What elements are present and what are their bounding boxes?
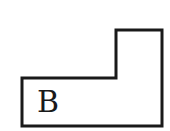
l-shape-diagram [0,0,170,131]
region-label: B [37,87,59,117]
